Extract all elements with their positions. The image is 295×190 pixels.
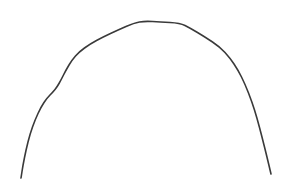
arch-curve <box>21 21 271 178</box>
drawing-canvas <box>0 0 295 190</box>
